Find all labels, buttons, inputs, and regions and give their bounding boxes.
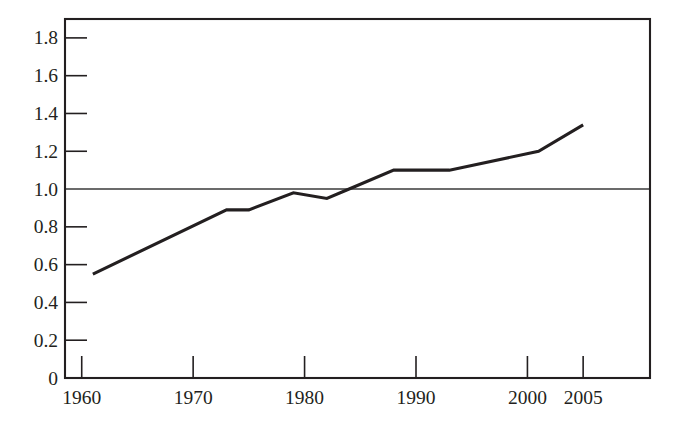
y-tick-label: 0.6 — [34, 254, 59, 275]
y-tick-label: 1.6 — [34, 65, 59, 86]
line-chart: 00.20.40.60.81.01.21.41.61.8 19601970198… — [0, 0, 682, 424]
y-tick-label: 1.8 — [34, 27, 58, 48]
x-tick-label: 1990 — [397, 387, 436, 408]
y-tick-label: 0.8 — [34, 216, 58, 237]
x-tick-label: 2000 — [508, 387, 547, 408]
y-tick-label: 0 — [48, 368, 58, 389]
chart-background — [0, 0, 682, 424]
y-tick-label: 1.0 — [34, 179, 58, 200]
x-tick-label: 1980 — [285, 387, 324, 408]
y-tick-label: 0.2 — [34, 330, 58, 351]
y-tick-label: 0.4 — [34, 292, 59, 313]
y-tick-label: 1.4 — [34, 103, 59, 124]
x-tick-label: 1960 — [62, 387, 101, 408]
x-tick-label: 1970 — [174, 387, 213, 408]
chart-figure: 00.20.40.60.81.01.21.41.61.8 19601970198… — [0, 0, 682, 424]
x-tick-label: 2005 — [564, 387, 603, 408]
y-tick-label: 1.2 — [34, 141, 58, 162]
